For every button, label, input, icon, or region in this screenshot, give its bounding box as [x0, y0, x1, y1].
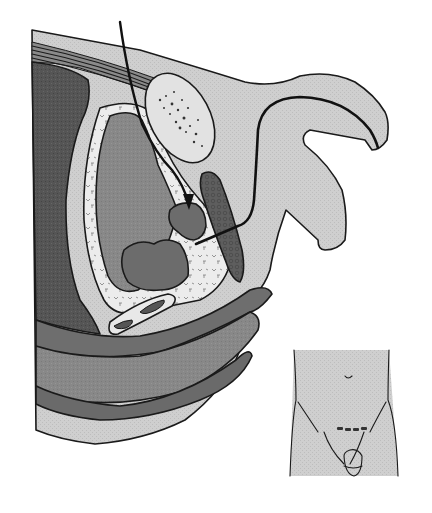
prostate-lobe-lower	[122, 240, 189, 290]
pelvis-diagram	[0, 0, 432, 513]
inset-figure	[290, 350, 398, 476]
